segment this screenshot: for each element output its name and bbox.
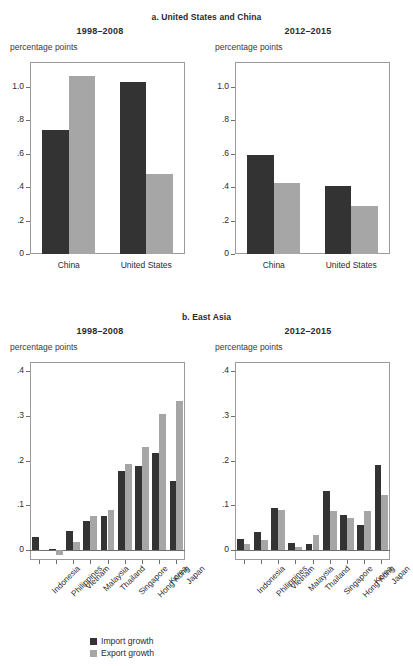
y-axis-tick-mark [26, 87, 30, 88]
legend-label: Export growth [101, 648, 154, 658]
chart-b1-plot: 0.1.2.3.4IndonesiaPhilippinesVietnamMala… [0, 356, 200, 626]
legend-label: Import growth [101, 636, 154, 646]
y-axis-tick-label: .2 [4, 455, 24, 465]
y-axis-tick-label: .3 [4, 410, 24, 420]
x-axis-tick-mark [295, 560, 296, 564]
x-axis-tick-mark [244, 560, 245, 564]
x-axis-tick-label: China [30, 260, 108, 270]
bar-import [49, 549, 56, 550]
x-axis-tick-label: United States [313, 260, 391, 270]
x-axis-tick-mark [347, 560, 348, 564]
y-axis-tick-mark [26, 221, 30, 222]
y-axis-tick-mark [26, 120, 30, 121]
y-axis-tick-label: .6 [4, 148, 24, 158]
y-axis-tick-mark [231, 221, 235, 222]
y-axis-tick-mark [231, 254, 235, 255]
bar-export [313, 535, 320, 550]
bar-export [278, 510, 285, 550]
y-axis-tick-label: .4 [209, 365, 229, 375]
bar-export [146, 174, 172, 254]
legend-item: Import growth [90, 636, 154, 646]
bar-export [347, 518, 354, 550]
y-axis-tick-label: 0 [4, 248, 24, 258]
y-axis-tick-mark [231, 505, 235, 506]
bar-export [56, 550, 63, 554]
bar-import [325, 186, 351, 254]
bar-export [69, 76, 95, 254]
y-axis-tick-label: .2 [209, 215, 229, 225]
x-axis-tick-mark [108, 560, 109, 564]
y-axis-tick-mark [26, 154, 30, 155]
x-axis-tick-mark [39, 560, 40, 564]
chart-a1-ylabel: percentage points [8, 42, 78, 52]
y-axis-tick-label: .1 [209, 499, 229, 509]
y-axis-tick-mark [231, 416, 235, 417]
y-axis-tick-mark [231, 87, 235, 88]
chart-a1-plot: 0.2.4.6.81.0ChinaUnited States [0, 56, 200, 286]
panel-b-title: b. East Asia [0, 312, 413, 322]
y-axis-tick-label: .8 [209, 114, 229, 124]
bar-import [152, 453, 159, 550]
bar-export [261, 540, 268, 550]
chart-b1-title: 1998–2008 [10, 326, 190, 336]
bar-import [340, 515, 347, 550]
chart-b2-plot: 0.1.2.3.4IndonesiaPhilippinesVietnamMala… [205, 356, 405, 626]
y-axis-tick-label: .4 [209, 181, 229, 191]
x-axis-tick-mark [159, 560, 160, 564]
bar-import [375, 465, 382, 550]
x-axis-tick-mark [313, 560, 314, 564]
y-axis-tick-mark [231, 187, 235, 188]
bar-export [90, 516, 97, 550]
bar-export [351, 206, 377, 254]
y-axis-tick-label: 1.0 [4, 81, 24, 91]
bar-import [118, 471, 125, 550]
chart-b2-title: 2012–2015 [218, 326, 398, 336]
x-axis-tick-mark [176, 560, 177, 564]
bar-import [170, 481, 177, 550]
chart-a2-ylabel: percentage points [213, 42, 283, 52]
y-axis-tick-mark [231, 154, 235, 155]
y-axis-tick-mark [26, 461, 30, 462]
bar-export [381, 495, 388, 550]
bar-export [159, 414, 166, 551]
y-axis-tick-label: .8 [4, 114, 24, 124]
bar-export [330, 511, 337, 550]
bar-export [108, 510, 115, 550]
y-axis-tick-mark [26, 416, 30, 417]
y-axis-tick-label: .1 [4, 499, 24, 509]
chart-a2-plot: 0.2.4.6.81.0ChinaUnited States [205, 56, 405, 286]
x-axis-tick-label: United States [108, 260, 186, 270]
y-axis-tick-label: .3 [209, 410, 229, 420]
bar-import [357, 525, 364, 551]
x-axis-tick-mark [364, 560, 365, 564]
bar-export [364, 511, 371, 550]
y-axis-tick-label: 0 [209, 248, 229, 258]
bar-import [323, 491, 330, 550]
chart-a2-title: 2012–2015 [218, 26, 398, 36]
y-axis-tick-label: .2 [209, 455, 229, 465]
bar-import [135, 466, 142, 550]
bar-export [142, 447, 149, 550]
bar-import [247, 155, 273, 254]
x-axis-tick-mark [56, 560, 57, 564]
bar-export [176, 401, 183, 550]
x-axis-tick-mark [381, 560, 382, 564]
zero-baseline [30, 550, 185, 551]
y-axis-tick-label: .4 [4, 181, 24, 191]
bar-import [120, 82, 146, 254]
y-axis-tick-mark [26, 254, 30, 255]
x-axis-tick-mark [278, 560, 279, 564]
y-axis-tick-mark [231, 120, 235, 121]
bar-export [244, 544, 251, 550]
bar-import [83, 521, 90, 550]
y-axis-tick-label: .6 [209, 148, 229, 158]
x-axis-tick-mark [261, 560, 262, 564]
x-axis-tick-label: China [235, 260, 313, 270]
y-axis-tick-label: .2 [4, 215, 24, 225]
y-axis-tick-mark [26, 505, 30, 506]
y-axis-tick-mark [26, 187, 30, 188]
x-axis-tick-mark [125, 560, 126, 564]
bar-import [254, 532, 261, 550]
bar-import [306, 544, 313, 550]
bar-import [101, 516, 108, 550]
